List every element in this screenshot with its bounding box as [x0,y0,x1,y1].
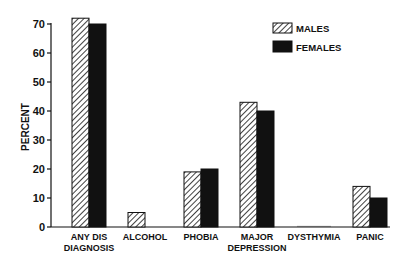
y-tick-label: 20 [33,163,45,175]
y-axis: 010203040506070 [33,18,51,233]
bar-males [128,213,145,228]
bar-females [370,198,387,227]
bar-females [89,24,106,227]
x-tick-label: ANY DIS [71,232,107,242]
bar-females [257,111,274,227]
bar-group [353,186,387,227]
x-tick-label: DEPRESSION [227,243,286,253]
bar-chart: PERCENT 010203040506070 ANY DISDIAGNOSIS… [0,0,410,260]
bar-group [184,169,218,227]
y-axis-title: PERCENT [20,103,31,151]
y-ticks: 010203040506070 [33,18,51,233]
bar-group [240,102,274,227]
y-tick-label: 10 [33,192,45,204]
legend-swatch-hatched [273,23,292,33]
bar-females [201,169,218,227]
x-axis: ANY DISDIAGNOSISALCOHOLPHOBIAMAJORDEPRES… [51,227,390,253]
bar-males [353,186,370,227]
bar-males [240,102,257,227]
y-tick-label: 40 [33,105,45,117]
x-tick-label: DYSTHYMIA [287,232,341,242]
legend-swatch-solid [273,41,292,52]
x-tick-label: DIAGNOSIS [64,243,115,253]
legend: MALES FEMALES [273,23,341,53]
x-tick-label: PANIC [356,232,384,242]
legend-item-males: MALES [273,23,329,34]
y-tick-label: 30 [33,134,45,146]
bar-group [128,213,145,228]
x-tick-label: ALCOHOL [123,232,168,242]
y-tick-label: 50 [33,76,45,88]
y-tick-label: 0 [39,221,45,233]
x-tick-label: MAJOR [241,232,274,242]
bar-males [72,18,89,227]
chart-canvas: PERCENT 010203040506070 ANY DISDIAGNOSIS… [0,0,410,260]
legend-item-females: FEMALES [273,41,341,53]
x-tick-label: PHOBIA [183,232,219,242]
legend-label-females: FEMALES [296,42,341,53]
bar-males [184,172,201,227]
x-tick-labels: ANY DISDIAGNOSISALCOHOLPHOBIAMAJORDEPRES… [64,232,384,253]
legend-label-males: MALES [296,23,329,34]
bar-group [72,18,106,227]
y-tick-label: 70 [33,18,45,30]
y-tick-label: 60 [33,47,45,59]
